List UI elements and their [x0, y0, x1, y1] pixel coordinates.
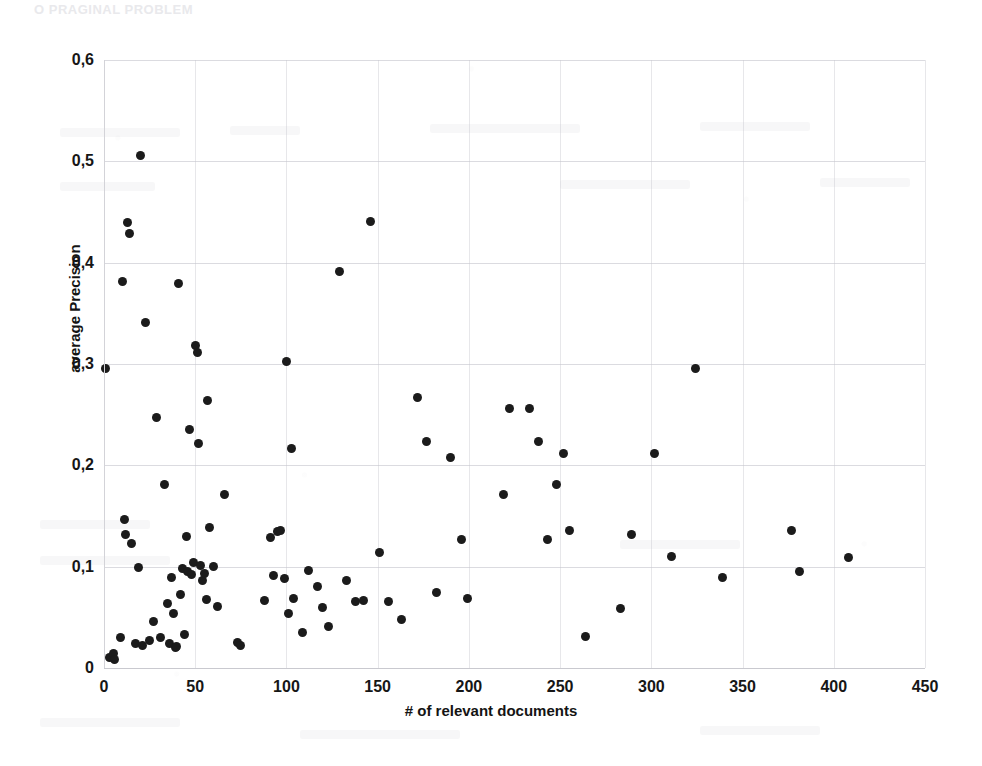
- y-axis-tick-label: 0,3: [34, 355, 94, 373]
- y-axis-tick-label: 0,5: [34, 152, 94, 170]
- data-point: [359, 596, 368, 605]
- data-point: [525, 404, 534, 413]
- x-axis-tick-label: 400: [820, 678, 847, 696]
- data-point: [101, 364, 110, 373]
- data-point: [650, 449, 659, 458]
- y-axis-tick-labels: 0,60,50,40,30,20,10: [26, 0, 94, 766]
- data-point: [145, 636, 154, 645]
- data-point: [276, 526, 285, 535]
- x-axis-tick-label: 250: [547, 678, 574, 696]
- data-point: [318, 603, 327, 612]
- data-point: [194, 439, 203, 448]
- gridline-vertical: [925, 60, 926, 668]
- data-point: [432, 588, 441, 597]
- data-point: [200, 569, 209, 578]
- x-axis-title: # of relevant documents: [0, 702, 982, 719]
- data-point: [844, 553, 853, 562]
- y-axis-tick-label: 0: [34, 659, 94, 677]
- gridline-vertical: [834, 60, 835, 668]
- data-point: [185, 425, 194, 434]
- data-point: [172, 642, 181, 651]
- x-axis-tick-label: 100: [273, 678, 300, 696]
- data-point: [121, 530, 130, 539]
- y-axis-line: [104, 60, 105, 668]
- data-point: [457, 535, 466, 544]
- gridline-vertical: [560, 60, 561, 668]
- data-point: [287, 444, 296, 453]
- y-axis-tick-label: 0,4: [34, 254, 94, 272]
- data-point: [505, 404, 514, 413]
- data-point: [125, 229, 134, 238]
- data-point: [220, 490, 229, 499]
- data-point: [169, 609, 178, 618]
- data-point: [552, 480, 561, 489]
- data-point: [193, 348, 202, 357]
- x-axis-tick-label: 0: [100, 678, 109, 696]
- data-point: [384, 597, 393, 606]
- data-point: [180, 630, 189, 639]
- data-point: [375, 548, 384, 557]
- data-point: [795, 567, 804, 576]
- data-point: [463, 594, 472, 603]
- data-point: [152, 413, 161, 422]
- data-point: [209, 562, 218, 571]
- data-point: [787, 526, 796, 535]
- data-point: [543, 535, 552, 544]
- data-point: [167, 573, 176, 582]
- data-point: [202, 595, 211, 604]
- data-point: [149, 617, 158, 626]
- data-point: [213, 602, 222, 611]
- data-point: [269, 571, 278, 580]
- x-axis-tick-label: 450: [912, 678, 939, 696]
- x-axis-tick-label: 350: [729, 678, 756, 696]
- y-axis-tick-label: 0,2: [34, 456, 94, 474]
- data-point: [160, 480, 169, 489]
- data-point: [280, 574, 289, 583]
- data-point: [324, 622, 333, 631]
- plot-area: [104, 60, 925, 668]
- gridline-vertical: [469, 60, 470, 668]
- x-axis-tick-label: 200: [456, 678, 483, 696]
- data-point: [304, 566, 313, 575]
- data-point: [718, 573, 727, 582]
- data-point: [559, 449, 568, 458]
- data-point: [422, 437, 431, 446]
- data-point: [236, 641, 245, 650]
- gridline-horizontal: [104, 263, 925, 264]
- data-point: [282, 357, 291, 366]
- data-point: [116, 633, 125, 642]
- data-point: [667, 552, 676, 561]
- data-point: [616, 604, 625, 613]
- data-point: [534, 437, 543, 446]
- x-axis-tick-label: 50: [186, 678, 204, 696]
- gridline-vertical: [743, 60, 744, 668]
- data-point: [397, 615, 406, 624]
- gridline-horizontal: [104, 161, 925, 162]
- data-point: [499, 490, 508, 499]
- data-point: [313, 582, 322, 591]
- data-point: [176, 590, 185, 599]
- gridline-vertical: [651, 60, 652, 668]
- data-point: [123, 218, 132, 227]
- gridline-vertical: [378, 60, 379, 668]
- data-point: [163, 599, 172, 608]
- data-point: [174, 279, 183, 288]
- y-axis-tick-label: 0,6: [34, 51, 94, 69]
- data-point: [134, 563, 143, 572]
- gridline-horizontal: [104, 465, 925, 466]
- data-point: [205, 523, 214, 532]
- y-axis-tick-label: 0,1: [34, 558, 94, 576]
- data-point: [565, 526, 574, 535]
- data-point: [136, 151, 145, 160]
- data-point: [156, 633, 165, 642]
- data-point: [627, 530, 636, 539]
- data-point: [110, 655, 119, 664]
- data-point: [118, 277, 127, 286]
- data-point: [141, 318, 150, 327]
- data-point: [127, 539, 136, 548]
- data-point: [182, 532, 191, 541]
- data-point: [691, 364, 700, 373]
- data-point: [581, 632, 590, 641]
- data-point: [342, 576, 351, 585]
- scatter-chart: 0,60,50,40,30,20,10 05010015020025030035…: [0, 0, 982, 766]
